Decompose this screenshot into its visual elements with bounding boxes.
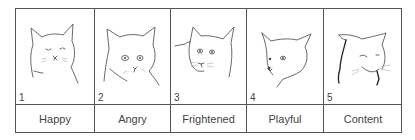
label-content: Content bbox=[324, 104, 402, 133]
panel-number: 4 bbox=[250, 92, 256, 103]
label-angry: Angry bbox=[95, 104, 171, 133]
cat-face-angry-icon bbox=[95, 9, 171, 104]
panel-number: 1 bbox=[19, 92, 25, 103]
panel-playful: 4 bbox=[247, 9, 324, 104]
label-playful: Playful bbox=[247, 104, 324, 133]
cat-face-playful-icon bbox=[247, 9, 324, 104]
panel-number: 3 bbox=[174, 92, 180, 103]
panel-angry: 2 bbox=[95, 9, 171, 104]
panel-number: 2 bbox=[98, 92, 104, 103]
cat-face-frightened-icon bbox=[171, 9, 247, 104]
cat-expressions-table: 1 2 3 bbox=[15, 8, 402, 133]
cat-face-content-icon bbox=[324, 9, 402, 104]
panel-frightened: 3 bbox=[171, 9, 247, 104]
label-frightened: Frightened bbox=[171, 104, 247, 133]
label-happy: Happy bbox=[16, 104, 95, 133]
panel-happy: 1 bbox=[16, 9, 95, 104]
panel-number: 5 bbox=[327, 92, 333, 103]
cat-face-happy-icon bbox=[16, 9, 94, 104]
panel-content: 5 bbox=[324, 9, 402, 104]
